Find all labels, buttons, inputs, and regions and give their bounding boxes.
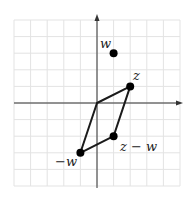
label-w: w [100,36,111,51]
label-z-minus-w: z − w [119,139,157,154]
axes [14,14,183,188]
point-z-minus-w [110,132,118,140]
y-axis-arrow-icon [95,14,100,21]
point-neg-w [76,149,84,157]
complex-plane-diagram: w z z − w −w [0,0,193,200]
label-neg-w: −w [55,154,77,169]
label-z: z [132,68,140,83]
point-z [126,82,134,90]
